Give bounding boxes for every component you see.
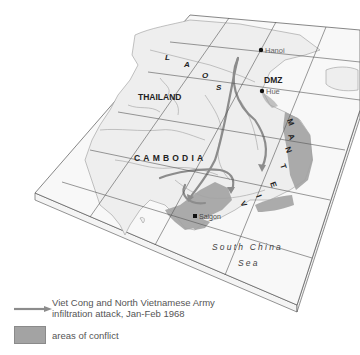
conflict-swatch-icon xyxy=(14,326,46,344)
label-sea-line1: South China xyxy=(212,242,283,252)
legend-row-area: areas of conflict xyxy=(12,322,252,346)
label-laos-o: O xyxy=(202,71,209,80)
hanoi-dot xyxy=(259,48,263,52)
legend-arrow-label: Viet Cong and North Vietnamese Army infi… xyxy=(52,298,215,319)
legend-arrow-line2: infiltration attack, Jan-Feb 1968 xyxy=(52,308,185,319)
arrow-icon xyxy=(14,306,52,312)
hue-dot xyxy=(260,89,264,93)
label-sea-line2: Sea xyxy=(238,258,260,268)
label-saigon: Saigon xyxy=(199,213,221,221)
label-laos-l: L xyxy=(165,53,170,62)
legend-row-arrow: Viet Cong and North Vietnamese Army infi… xyxy=(12,298,252,322)
saigon-marker xyxy=(193,214,197,218)
label-hanoi: Hanoi xyxy=(265,46,285,55)
label-hue: Hue xyxy=(266,87,280,96)
label-dmz: DMZ xyxy=(264,75,282,85)
legend-arrow-line1: Viet Cong and North Vietnamese Army xyxy=(52,297,215,308)
label-laos-a: A xyxy=(183,60,190,69)
label-cambodia: CAMBODIA xyxy=(134,153,206,163)
legend-area-label: areas of conflict xyxy=(52,330,119,341)
legend: Viet Cong and North Vietnamese Army infi… xyxy=(12,298,252,346)
label-laos-s: S xyxy=(216,83,222,92)
label-thailand: THAILAND xyxy=(138,92,181,102)
